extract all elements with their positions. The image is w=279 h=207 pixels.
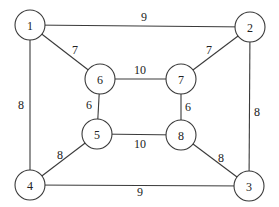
edge-weight-label: 8 xyxy=(57,148,63,162)
edge-weight-label: 9 xyxy=(137,185,143,199)
node-label: 8 xyxy=(178,129,184,143)
edge-weight-label: 8 xyxy=(18,98,24,112)
edge-weight-label: 8 xyxy=(254,105,260,119)
node-5: 5 xyxy=(82,119,112,149)
nodes-layer: 12345678 xyxy=(15,10,265,201)
edge-weight-label: 9 xyxy=(141,10,147,24)
edge-weight-labels: 97878106610889 xyxy=(18,10,260,199)
node-4: 4 xyxy=(15,170,45,200)
edge-weight-label: 6 xyxy=(185,100,191,114)
node-label: 7 xyxy=(178,73,184,87)
node-label: 4 xyxy=(27,179,33,193)
edge-weight-label: 8 xyxy=(218,151,224,165)
edge-weight-label: 6 xyxy=(86,98,92,112)
node-2: 2 xyxy=(235,12,265,42)
edge-weight-label: 7 xyxy=(72,43,78,57)
node-1: 1 xyxy=(15,10,45,40)
node-label: 3 xyxy=(246,180,252,194)
node-label: 5 xyxy=(94,128,100,142)
edge-1-2 xyxy=(30,25,250,27)
node-label: 6 xyxy=(97,73,103,87)
edge-weight-label: 7 xyxy=(206,43,212,57)
edge-2-3 xyxy=(249,27,250,186)
node-3: 3 xyxy=(234,171,264,201)
node-8: 8 xyxy=(166,120,196,150)
node-6: 6 xyxy=(85,64,115,94)
node-7: 7 xyxy=(166,64,196,94)
edge-weight-label: 10 xyxy=(134,63,146,77)
edge-weight-label: 10 xyxy=(134,137,146,151)
graph-diagram: 97878106610889 12345678 xyxy=(0,0,279,207)
edges-layer xyxy=(30,25,250,186)
node-label: 2 xyxy=(247,21,253,35)
node-label: 1 xyxy=(27,19,33,33)
